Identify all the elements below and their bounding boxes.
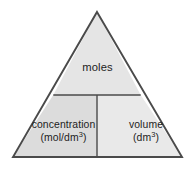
triangle-cell-top-fill bbox=[53, 12, 140, 95]
concentration-unit-base: (mol/dm bbox=[40, 132, 78, 143]
volume-unit: (dm3) bbox=[97, 132, 195, 145]
volume-text: volume bbox=[129, 119, 163, 130]
moles-text: moles bbox=[82, 61, 112, 73]
concentration-unit-close: ) bbox=[83, 132, 87, 143]
cell-label-moles: moles bbox=[0, 61, 195, 75]
cell-label-volume: volume (dm3) bbox=[97, 119, 195, 144]
concentration-text: concentration bbox=[32, 119, 96, 130]
triangle-graphic bbox=[0, 0, 195, 170]
volume-unit-close: ) bbox=[155, 132, 159, 143]
moles-triangle-diagram: moles concentration (mol/dm3) volume (dm… bbox=[0, 0, 195, 170]
volume-unit-base: (dm bbox=[133, 132, 151, 143]
